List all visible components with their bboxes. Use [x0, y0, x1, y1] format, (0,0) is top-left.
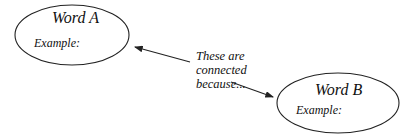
connector-line-3: because... [196, 77, 247, 91]
connector-line-2: connected [196, 63, 247, 77]
word-b-example-label: Example: [296, 103, 342, 118]
word-a-title: Word A [52, 9, 99, 27]
arrow-to-word-a [135, 47, 190, 62]
word-b-title: Word B [315, 81, 362, 99]
connector-line-1: These are [196, 49, 247, 63]
connector-explanation: These are connected because... [196, 49, 247, 91]
word-a-example-label: Example: [34, 36, 80, 51]
